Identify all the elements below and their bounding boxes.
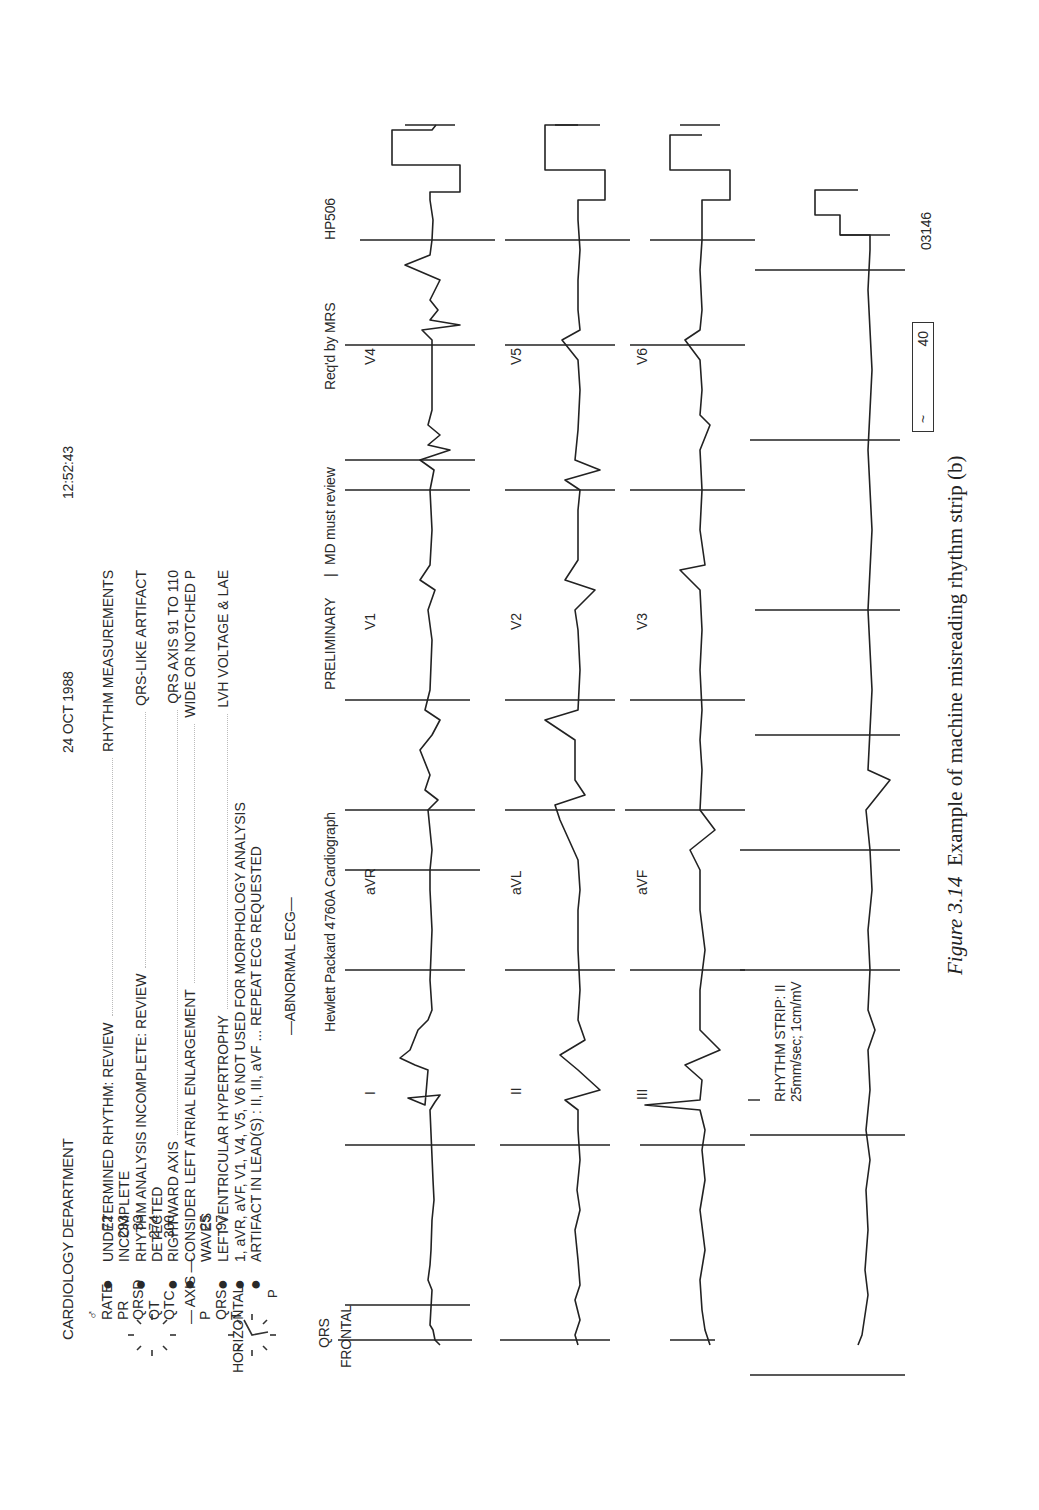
box-left-mark: ~ — [915, 415, 931, 423]
figure-caption: Figure 3.14 Example of machine misreadin… — [943, 456, 968, 975]
trace-row3 — [645, 135, 730, 1345]
figure-number: Figure 3.14 — [943, 877, 967, 975]
rhythm-box: ~ 40 — [912, 322, 934, 432]
trace-rhythm — [815, 190, 890, 1345]
trace-row2 — [545, 125, 605, 1345]
box-value: 40 — [915, 331, 931, 347]
ecg-report-page: CARDIOLOGY DEPARTMENT 24 OCT 1988 12:52:… — [0, 0, 1039, 1510]
ecg-traces — [0, 0, 1039, 1510]
record-id: 03146 — [918, 212, 934, 250]
figure-caption-text: Example of machine misreading rhythm str… — [943, 456, 967, 867]
trace-row1 — [392, 125, 460, 1345]
